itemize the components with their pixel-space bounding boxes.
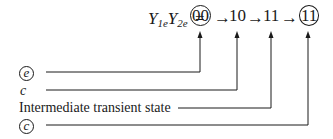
circled-c-icon: c: [19, 119, 34, 134]
label-c-circled: c: [19, 118, 34, 134]
label-e-circled: e: [19, 65, 34, 81]
arrowhead-icon: [306, 31, 311, 38]
arrowhead-icon: [235, 31, 240, 38]
circled-e-icon: e: [19, 66, 34, 81]
arrowhead-icon: [269, 31, 274, 38]
connector-lines: [0, 0, 333, 139]
label-intermediate-transient-state: Intermediate transient state: [19, 100, 171, 116]
connector-c: [46, 36, 237, 90]
label-c: c: [20, 83, 26, 99]
arrowhead-icon: [198, 31, 203, 38]
connector-e-circled: [46, 36, 200, 72]
